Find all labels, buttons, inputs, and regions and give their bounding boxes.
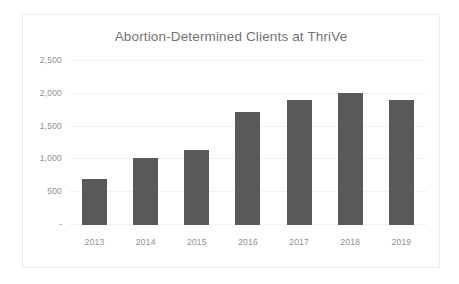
x-axis-tick-2018: 2018 [340, 237, 360, 247]
bar-slot: 2013 [69, 61, 120, 225]
y-axis-tick-2500: 2,500 [40, 55, 62, 65]
bar-slot: 2014 [120, 61, 171, 225]
bar-2014[interactable] [133, 158, 158, 225]
bar-2015[interactable] [184, 150, 209, 225]
y-axis-tick-1000: 1,000 [40, 153, 62, 163]
x-axis-tick-2016: 2016 [238, 237, 258, 247]
x-axis-tick-2014: 2014 [136, 237, 156, 247]
bar-slot: 2018 [325, 61, 376, 225]
x-axis-tick-2015: 2015 [187, 237, 207, 247]
bar-2017[interactable] [287, 100, 312, 225]
plot-area: 2,500 2,000 1,500 1,000 500 - 2013 2014 [69, 61, 427, 225]
y-axis-tick-0: - [59, 219, 62, 229]
y-axis-tick-1500: 1,500 [40, 121, 62, 131]
bar-2018[interactable] [338, 93, 363, 225]
y-axis-tick-500: 500 [47, 186, 62, 196]
y-axis-tick-2000: 2,000 [40, 88, 62, 98]
bar-slot: 2016 [222, 61, 273, 225]
chart-title: Abortion-Determined Clients at ThriVe [23, 29, 439, 44]
bar-2013[interactable] [82, 179, 107, 225]
x-axis-tick-2017: 2017 [289, 237, 309, 247]
x-axis-tick-2013: 2013 [85, 237, 105, 247]
bar-series: 2013 2014 2015 2016 2017 2018 [69, 61, 427, 225]
bar-slot: 2015 [171, 61, 222, 225]
bar-slot: 2019 [376, 61, 427, 225]
x-axis-tick-2019: 2019 [392, 237, 412, 247]
bar-slot: 2017 [274, 61, 325, 225]
chart-card: Abortion-Determined Clients at ThriVe 2,… [22, 14, 440, 268]
bar-2016[interactable] [235, 112, 260, 225]
bar-2019[interactable] [389, 100, 414, 225]
